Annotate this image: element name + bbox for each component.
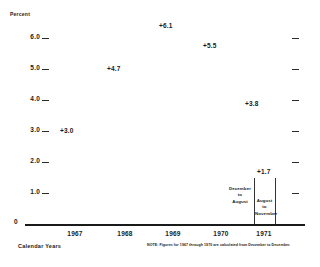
y-tick-6-box: 6.0 (10, 33, 40, 43)
data-label-1967: +3.0 (60, 127, 74, 134)
y-tick-4-label: 4.0 (30, 95, 40, 102)
y-tick-5-mark-left (42, 69, 49, 70)
y-tick-3-label: 3.0 (30, 126, 40, 133)
y-tick-2-label: 2.0 (30, 157, 40, 164)
annotation-december-to-august-line3: August (228, 199, 252, 205)
y-tick-4-mark-right (292, 100, 299, 101)
x-tick-1970: 1970 (204, 230, 238, 237)
y-tick-1-box: 1.0 (10, 188, 40, 198)
data-label-1971-aug-nov: +1.7 (257, 168, 271, 175)
y-tick-2-mark-left (42, 162, 49, 163)
data-label-1968: +4.7 (107, 65, 121, 72)
y-tick-3-box: 3.0 (10, 126, 40, 136)
y-tick-zero-label: 0 (14, 218, 18, 225)
y-tick-1-mark-right (292, 193, 299, 194)
annotation-august-to-november: August to November (255, 198, 274, 217)
data-label-1971-dec-aug: +3.8 (245, 100, 259, 107)
y-tick-5-mark-right (292, 69, 299, 70)
y-tick-2-mark-right (292, 162, 299, 163)
y-tick-3-mark-left (42, 131, 49, 132)
x-tick-1968: 1968 (108, 230, 142, 237)
y-tick-1-label: 1.0 (30, 188, 40, 195)
data-label-1969: +6.1 (159, 22, 173, 29)
y-tick-4-box: 4.0 (10, 95, 40, 105)
annotation-august-to-november-line3: November (255, 211, 274, 217)
y-axis-title: Percent (10, 11, 30, 17)
y-tick-6-mark-left (42, 38, 49, 39)
y-tick-6-mark-right (292, 38, 299, 39)
y-tick-3-mark-right (292, 131, 299, 132)
x-axis-baseline (25, 224, 305, 226)
y-tick-2-box: 2.0 (10, 157, 40, 167)
y-tick-1-mark-left (42, 193, 49, 194)
y-tick-5-label: 5.0 (30, 64, 40, 71)
x-tick-1969: 1969 (156, 230, 190, 237)
y-tick-6-label: 6.0 (30, 33, 40, 40)
chart-canvas: Percent 6.0 5.0 4.0 3.0 2.0 (0, 0, 320, 267)
data-label-1970: +5.5 (203, 42, 217, 49)
x-tick-1967: 1967 (58, 230, 92, 237)
y-tick-5-box: 5.0 (10, 64, 40, 74)
x-tick-1971: 1971 (247, 230, 281, 237)
x-axis-title: Calendar Years (18, 243, 61, 249)
y-tick-4-mark-left (42, 100, 49, 101)
chart-note: NOTE: Figures for 1967 through 1970 are … (147, 243, 290, 247)
annotation-december-to-august: December to August (228, 186, 252, 205)
